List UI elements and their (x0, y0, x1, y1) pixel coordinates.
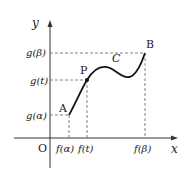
point-p-marker (85, 78, 89, 82)
x-axis-arrow-icon (171, 136, 178, 141)
y-tick-g-beta: g(β) (26, 47, 46, 58)
point-p-label: P (80, 64, 88, 77)
curve-c (69, 53, 145, 115)
curve-c-label: C (112, 52, 121, 65)
y-tick-g-alpha: g(α) (26, 110, 47, 121)
point-b-label: B (146, 38, 154, 51)
y-axis-arrow-icon (48, 20, 53, 27)
parametric-curve-diagram: y x O A P B C g(β) g(t) g(α) f(α) f(t) f… (0, 0, 188, 176)
y-tick-g-t: g(t) (30, 75, 48, 86)
x-tick-f-alpha: f(α) (55, 143, 74, 154)
guide-lines (50, 53, 145, 138)
origin-label: O (38, 142, 47, 155)
x-tick-f-beta: f(β) (133, 143, 151, 154)
y-axis-label: y (31, 16, 39, 30)
x-tick-f-t: f(t) (77, 143, 94, 154)
point-a-label: A (58, 102, 68, 115)
x-axis-label: x (171, 142, 178, 156)
